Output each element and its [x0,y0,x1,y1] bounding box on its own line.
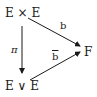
node-wedge: E ∨ E [5,80,39,92]
node-f: F [84,46,92,58]
label-b-bar: b [52,52,58,62]
label-pi: π [11,45,18,55]
node-product: E × E [5,7,40,19]
arrow-b [28,18,80,46]
label-b: b [60,21,66,31]
